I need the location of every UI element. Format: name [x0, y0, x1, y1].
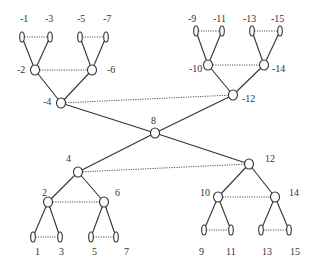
node-label: -15 — [271, 13, 284, 24]
leaf-node — [259, 225, 264, 235]
tree-node — [74, 167, 83, 177]
node-label: -12 — [242, 93, 255, 104]
node-label: -10 — [189, 63, 202, 74]
node-label: -7 — [103, 13, 111, 24]
tree-edge — [208, 65, 233, 95]
leaf-node — [194, 26, 199, 36]
node-label: -9 — [188, 13, 196, 24]
node-label: -3 — [45, 13, 53, 24]
tree-node — [271, 192, 280, 202]
tree-edge — [61, 70, 92, 103]
tree-node — [57, 98, 66, 108]
leaf-node — [250, 26, 255, 36]
node-label: 1 — [35, 246, 40, 257]
tree-node — [88, 65, 97, 75]
tree-edge — [78, 133, 155, 172]
node-label: 5 — [92, 246, 97, 257]
node-label: 3 — [59, 246, 64, 257]
node-label: -1 — [20, 13, 28, 24]
node-label: -13 — [243, 13, 256, 24]
leaf-node — [114, 232, 119, 242]
node-label: 8 — [151, 115, 156, 126]
node-label: 4 — [66, 153, 71, 164]
node-label: -14 — [272, 63, 285, 74]
tree-edge — [208, 31, 222, 65]
tree-edge — [249, 164, 275, 197]
leaf-node — [48, 32, 53, 42]
node-label: 11 — [226, 246, 236, 257]
leaf-node — [220, 26, 225, 36]
leaf-node — [278, 26, 283, 36]
tree-diagram: -1-3-5-7-2-6-4-9-11-13-15-10-14-12842613… — [0, 0, 315, 269]
tree-edge — [264, 31, 280, 65]
tree-edge — [48, 202, 60, 237]
tree-edge — [218, 164, 249, 197]
tree-edge — [33, 202, 48, 237]
tree-node — [151, 128, 160, 138]
tree-edge — [61, 103, 155, 133]
node-label: -5 — [77, 13, 85, 24]
leaf-node — [20, 32, 25, 42]
node-label: 2 — [42, 187, 47, 198]
leaf-node — [89, 232, 94, 242]
node-label: 15 — [290, 246, 300, 257]
leaf-node — [287, 225, 292, 235]
tree-edge — [233, 65, 264, 95]
tree-node — [260, 60, 269, 70]
tree-node — [44, 197, 53, 207]
node-label: -11 — [213, 13, 226, 24]
node-label: 9 — [199, 246, 204, 257]
tree-edge — [91, 202, 104, 237]
node-label: 13 — [262, 246, 272, 257]
node-label: 14 — [289, 187, 299, 198]
node-label: 6 — [115, 187, 120, 198]
tree-edge — [78, 172, 104, 202]
tree-node — [100, 197, 109, 207]
tree-node — [204, 60, 213, 70]
tree-edge — [48, 172, 78, 202]
node-label: 10 — [200, 187, 210, 198]
leaf-node — [78, 32, 83, 42]
leaf-node — [58, 232, 63, 242]
leaf-node — [229, 225, 234, 235]
tree-edge — [155, 95, 233, 133]
leaf-node — [31, 232, 36, 242]
dotted-link — [78, 164, 249, 172]
node-label: 12 — [265, 153, 275, 164]
leaf-node — [104, 32, 109, 42]
node-label: -4 — [43, 96, 51, 107]
diagram-canvas: -1-3-5-7-2-6-4-9-11-13-15-10-14-12842613… — [0, 0, 315, 269]
tree-node — [229, 90, 238, 100]
tree-edge — [155, 133, 249, 164]
node-label: -2 — [17, 64, 25, 75]
tree-edge — [104, 202, 116, 237]
tree-node — [214, 192, 223, 202]
leaf-node — [202, 225, 207, 235]
tree-node — [31, 65, 40, 75]
node-label: -6 — [107, 64, 115, 75]
node-label: 7 — [124, 246, 129, 257]
dotted-link — [61, 95, 233, 103]
tree-node — [245, 159, 254, 169]
